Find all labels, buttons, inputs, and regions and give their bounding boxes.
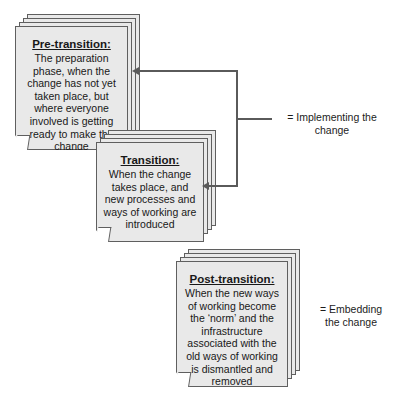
pre-transition-title: Pre-transition:: [32, 37, 111, 51]
bracket-bottom-arrowhead: [202, 182, 209, 190]
post-transition-corner-fold: [176, 372, 191, 387]
legend-embedding-the-change: = Embedding the change: [312, 303, 390, 329]
transition-card-body: Transition: When the change takes place,…: [97, 143, 203, 231]
transition-card: Transition: When the change takes place,…: [96, 142, 204, 242]
pre-transition-corner-fold: [15, 135, 30, 150]
bracket-legend-stub: [238, 118, 272, 120]
bracket-top-arrowhead: [132, 67, 139, 75]
post-transition-card-body: Post-transition: When the new ways of wo…: [177, 262, 287, 388]
bracket-bottom-arm: [209, 185, 238, 187]
post-transition-card-stack: Post-transition: When the new ways of wo…: [176, 249, 306, 389]
post-transition-text: When the new ways of working become the …: [183, 287, 281, 388]
bracket-vertical-spine: [236, 70, 238, 187]
post-transition-card: Post-transition: When the new ways of wo…: [176, 261, 288, 387]
post-transition-title: Post-transition:: [190, 272, 275, 286]
transition-phases-diagram: Pre-transition: The preparation phase, w…: [0, 0, 393, 411]
transition-text: When the change takes place, and new pro…: [103, 168, 197, 231]
legend-implementing-the-change: = Implementing the change: [276, 111, 388, 137]
bracket-top-arm: [139, 70, 238, 72]
transition-title: Transition:: [121, 153, 180, 167]
transition-corner-fold: [96, 227, 111, 242]
